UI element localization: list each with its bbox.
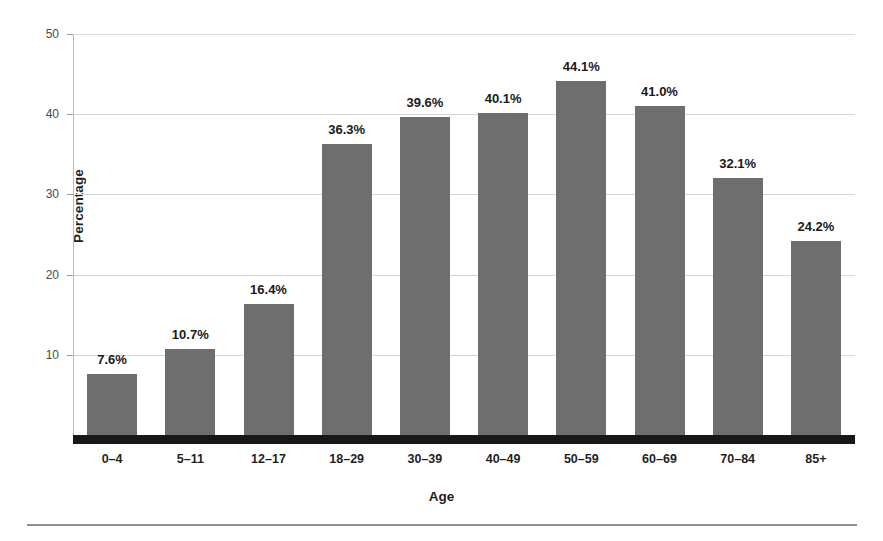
y-tick-label: 30 — [19, 187, 59, 201]
bar — [165, 349, 215, 435]
x-tick-label: 40–49 — [458, 452, 548, 466]
x-axis-baseline — [73, 435, 855, 444]
bar — [556, 81, 606, 435]
bar — [244, 304, 294, 436]
bar — [322, 144, 372, 435]
y-tick-mark-50 — [67, 34, 73, 35]
y-tick-mark-10 — [67, 355, 73, 356]
x-tick-label: 70–84 — [693, 452, 783, 466]
y-tick-mark-40 — [67, 114, 73, 115]
bar — [400, 117, 450, 435]
bar — [635, 106, 685, 435]
bar-value-label: 41.0% — [615, 84, 705, 99]
bar-value-label: 32.1% — [693, 156, 783, 171]
bar — [791, 241, 841, 435]
bar-value-label: 24.2% — [771, 219, 861, 234]
bar-value-label: 39.6% — [380, 95, 470, 110]
x-tick-label: 0–4 — [67, 452, 157, 466]
bar-value-label: 36.3% — [302, 122, 392, 137]
x-tick-label: 85+ — [771, 452, 861, 466]
y-tick-label: 10 — [19, 348, 59, 362]
y-tick-label: 20 — [19, 268, 59, 282]
y-tick-mark-20 — [67, 275, 73, 276]
bar — [87, 374, 137, 435]
x-tick-label: 50–59 — [536, 452, 626, 466]
y-tick-mark-30 — [67, 194, 73, 195]
x-tick-label: 18–29 — [302, 452, 392, 466]
gridline-40 — [73, 114, 855, 115]
page-footer-rule — [27, 524, 857, 526]
bar-value-label: 40.1% — [458, 91, 548, 106]
x-tick-label: 30–39 — [380, 452, 470, 466]
bar-value-label: 10.7% — [145, 327, 235, 342]
plot-area: 7.6%10.7%16.4%36.3%39.6%40.1%44.1%41.0%3… — [73, 34, 855, 435]
bar-value-label: 16.4% — [224, 282, 314, 297]
bar-chart-figure: Percentage 7.6%10.7%16.4%36.3%39.6%40.1%… — [0, 0, 883, 541]
x-tick-label: 12–17 — [224, 452, 314, 466]
x-tick-label: 5–11 — [145, 452, 235, 466]
x-axis-title: Age — [0, 489, 883, 504]
x-tick-label: 60–69 — [615, 452, 705, 466]
bar — [713, 178, 763, 435]
bar — [478, 113, 528, 435]
bar-value-label: 44.1% — [536, 59, 626, 74]
gridline-50 — [73, 34, 855, 35]
y-tick-label: 50 — [19, 27, 59, 41]
bar-value-label: 7.6% — [67, 352, 157, 367]
y-tick-label: 40 — [19, 107, 59, 121]
